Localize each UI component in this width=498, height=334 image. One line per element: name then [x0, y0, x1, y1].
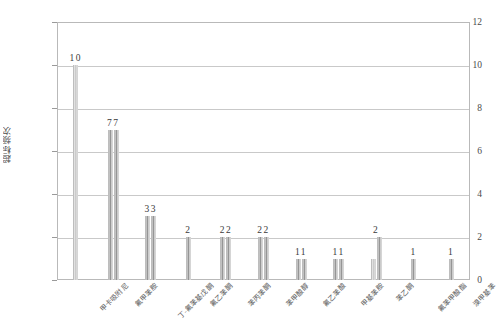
bar[interactable]: [411, 259, 416, 281]
bar-group[interactable]: 77: [95, 22, 133, 280]
bar-value-label: 2: [373, 225, 379, 235]
bar-group[interactable]: 11: [282, 22, 320, 280]
bar-group[interactable]: 1: [432, 22, 470, 280]
bar[interactable]: [73, 65, 78, 280]
bar-value-label: 33: [145, 204, 158, 214]
bar-group[interactable]: 33: [132, 22, 170, 280]
bar[interactable]: [296, 259, 301, 281]
bar-value-label: 22: [257, 225, 270, 235]
x-tick-label: 氟乙苯酸: [322, 282, 348, 308]
bar[interactable]: [108, 130, 113, 281]
bar-group[interactable]: 2: [357, 22, 395, 280]
bar-group[interactable]: 22: [207, 22, 245, 280]
bar-value-label: 11: [295, 247, 307, 257]
bar-group[interactable]: 11: [320, 22, 358, 280]
bar-value-label: 77: [107, 118, 120, 128]
bar[interactable]: [377, 237, 382, 280]
bar-group[interactable]: 2: [170, 22, 208, 280]
bar-group[interactable]: 10: [57, 22, 95, 280]
bar[interactable]: [333, 259, 338, 281]
bar[interactable]: [264, 237, 269, 280]
bar[interactable]: [114, 130, 119, 281]
bar[interactable]: [145, 216, 150, 281]
bar[interactable]: [186, 237, 191, 280]
bar-value-label: 22: [220, 225, 233, 235]
x-tick-label: 苯丙苯酮: [247, 282, 273, 308]
bar[interactable]: [258, 237, 263, 280]
bar-value-label: 1: [411, 247, 417, 257]
bar-value-label: 1: [448, 247, 454, 257]
y-tick-mark: [52, 280, 57, 281]
x-tick-label: 氟甲苯胺: [134, 282, 160, 308]
x-tick-label: 苯甲酸醇: [284, 282, 310, 308]
x-tick-label: 溴甲基苯: [472, 282, 498, 308]
x-tick-label: 甲卡吸附尼: [98, 282, 129, 313]
bar[interactable]: [339, 259, 344, 281]
bar-group[interactable]: 22: [245, 22, 283, 280]
y-axis-title: 超标频次: [4, 125, 18, 163]
bar-value-label: 11: [333, 247, 345, 257]
bar[interactable]: [302, 259, 307, 281]
bar[interactable]: [449, 259, 454, 281]
bar-group[interactable]: 1: [395, 22, 433, 280]
bar[interactable]: [371, 259, 376, 281]
bar[interactable]: [151, 216, 156, 281]
bar[interactable]: [220, 237, 225, 280]
bar-value-label: 2: [185, 225, 191, 235]
bars-layer: 107733222221111211: [57, 22, 470, 280]
x-tick-label: 甲基苯胺: [359, 282, 385, 308]
x-tick-label: 氟苯甲酸酯: [436, 282, 467, 313]
x-tick-label: 苯乙酮: [395, 282, 416, 303]
bar[interactable]: [226, 237, 231, 280]
bar-value-label: 10: [70, 53, 83, 63]
x-axis-tick-labels: 甲卡吸附尼氟甲苯胺丁-氟苯基戊酮氟乙苯酮苯丙苯酮苯甲酸醇氟乙苯酸甲基苯胺苯乙酮氟…: [57, 282, 470, 334]
